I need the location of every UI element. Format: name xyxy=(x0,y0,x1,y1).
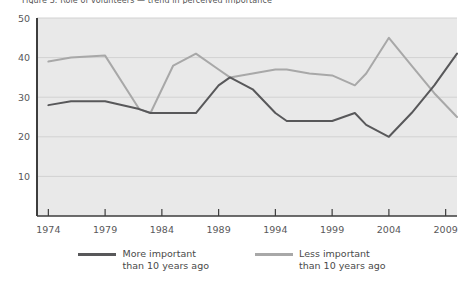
legend-label-more-important-line1: More important xyxy=(122,248,209,260)
y-axis-labels: 1020304050 xyxy=(18,13,30,182)
legend-label-less-important-line1: Less important xyxy=(299,248,386,260)
legend-item-more-important: More important than 10 years ago xyxy=(78,248,209,271)
svg-text:1979: 1979 xyxy=(93,224,117,235)
legend-label-more-important-line2: than 10 years ago xyxy=(122,260,209,272)
svg-text:30: 30 xyxy=(18,92,30,103)
svg-text:1999: 1999 xyxy=(320,224,344,235)
line-chart: 1020304050 19741979198419891994199920042… xyxy=(0,0,464,250)
svg-text:1974: 1974 xyxy=(36,224,60,235)
svg-text:40: 40 xyxy=(18,52,30,63)
plot-background xyxy=(37,18,457,216)
x-axis-labels: 19741979198419891994199920042009 xyxy=(36,224,457,235)
svg-text:2009: 2009 xyxy=(434,224,458,235)
figure-container: Figure 3. Role of volunteers — trend in … xyxy=(0,0,464,282)
legend-item-less-important: Less important than 10 years ago xyxy=(255,248,386,271)
svg-text:1984: 1984 xyxy=(150,224,174,235)
legend-swatch-more-important xyxy=(78,253,116,256)
svg-text:50: 50 xyxy=(18,13,30,24)
svg-text:1989: 1989 xyxy=(207,224,231,235)
legend-label-less-important-line2: than 10 years ago xyxy=(299,260,386,272)
legend-swatch-less-important xyxy=(255,253,293,256)
svg-text:1994: 1994 xyxy=(263,224,287,235)
legend-label-more-important: More important than 10 years ago xyxy=(122,248,209,271)
svg-text:20: 20 xyxy=(18,131,30,142)
chart-legend: More important than 10 years ago Less im… xyxy=(0,248,464,271)
svg-text:2004: 2004 xyxy=(377,224,401,235)
svg-text:10: 10 xyxy=(18,171,30,182)
legend-label-less-important: Less important than 10 years ago xyxy=(299,248,386,271)
